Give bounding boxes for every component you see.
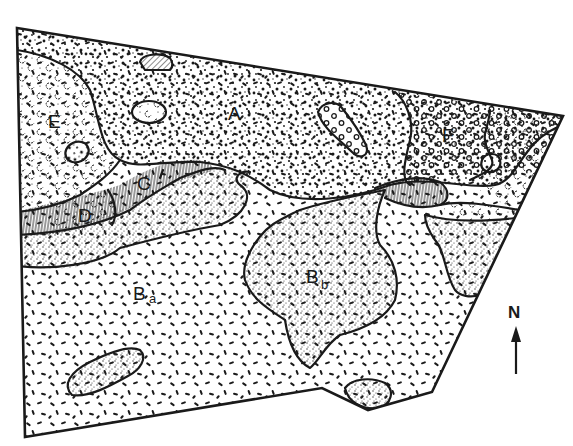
label-bb-sub: b (321, 277, 328, 292)
label-f: F (442, 125, 454, 146)
label-bb: B (306, 266, 319, 287)
label-c: C (137, 173, 151, 194)
label-e: E (48, 111, 61, 132)
label-ba-sub: a (149, 291, 157, 306)
label-d: D (78, 205, 92, 226)
north-arrow: N (508, 303, 521, 374)
soil-map: E A F C D B a B b N (0, 0, 573, 446)
label-ba: B (133, 283, 146, 304)
north-label: N (508, 303, 520, 322)
label-a: A (228, 103, 241, 124)
